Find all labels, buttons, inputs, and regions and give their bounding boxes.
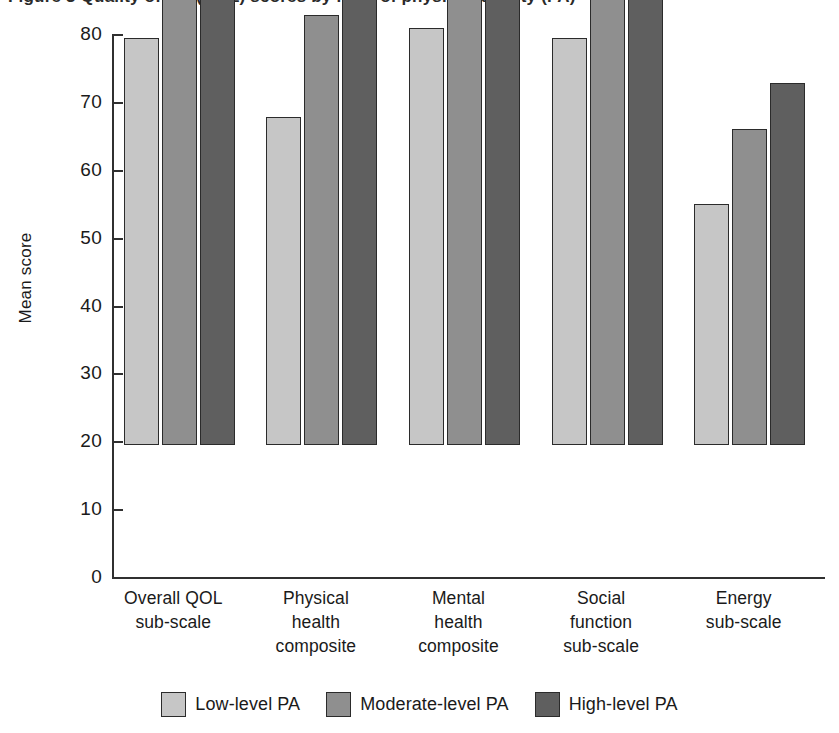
bar [162,0,197,445]
x-axis-category-label-line: function [530,610,673,634]
legend-label: Moderate-level PA [360,694,508,715]
bar [628,0,663,445]
bar [732,129,767,445]
legend-item: Low-level PA [161,692,300,717]
legend-label: High-level PA [569,694,678,715]
figure-container: Figure 3 Quality of life (QOL) scores by… [0,0,839,733]
legend-item: High-level PA [535,692,678,717]
chart-legend: Low-level PAModerate-level PAHigh-level … [0,692,839,717]
x-axis-category-label: Physicalhealthcomposite [245,586,388,658]
bar [485,0,520,445]
x-axis-category-label-line: sub-scale [530,634,673,658]
x-axis-category-label-line: composite [387,634,530,658]
bars-layer [0,0,839,600]
bar [552,38,587,445]
bar [447,0,482,445]
x-axis-category-label-line: health [387,610,530,634]
x-axis-category-label-line: sub-scale [102,610,245,634]
x-axis-category-label: Mentalhealthcomposite [387,586,530,658]
x-axis-category-label-line: sub-scale [672,610,815,634]
legend-item: Moderate-level PA [326,692,508,717]
legend-swatch [161,692,186,717]
plot-area: Mean score 01020304050607080 Overall QOL… [0,0,839,600]
legend-swatch [326,692,351,717]
bar [304,15,339,445]
x-axis-category-label-line: composite [245,634,388,658]
bar [124,38,159,445]
x-axis-category-label-line: Mental [387,586,530,610]
x-axis-category-label: Overall QOLsub-scale [102,586,245,634]
legend-label: Low-level PA [195,694,300,715]
bar [590,0,625,445]
x-axis-category-label-line: Physical [245,586,388,610]
x-axis-category-labels: Overall QOLsub-scalePhysicalhealthcompos… [112,586,825,676]
bar [200,0,235,445]
x-axis-category-label-line: Social [530,586,673,610]
legend-swatch [535,692,560,717]
x-axis-category-label-line: Overall QOL [102,586,245,610]
x-axis-category-label-line: Energy [672,586,815,610]
bar [342,0,377,445]
bar [770,83,805,445]
x-axis-category-label: Socialfunctionsub-scale [530,586,673,658]
bar [694,204,729,445]
x-axis-category-label: Energysub-scale [672,586,815,634]
x-axis-category-label-line: health [245,610,388,634]
bar [266,117,301,445]
bar [409,28,444,445]
